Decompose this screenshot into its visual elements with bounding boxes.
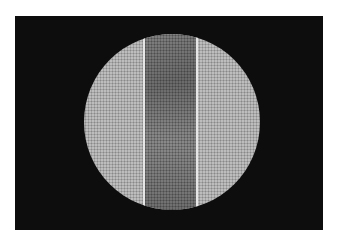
band-right-edge — [196, 34, 198, 210]
microscope-field — [84, 34, 260, 210]
dark-vertical-band — [144, 34, 196, 210]
black-background — [15, 16, 323, 230]
band-left-edge — [143, 34, 145, 210]
